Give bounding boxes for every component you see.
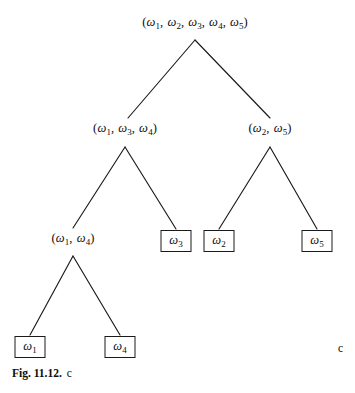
figure-number: Fig. 11.12.	[12, 367, 62, 379]
leaf-node-w1-label: ω1	[23, 340, 36, 355]
figure-canvas: (ω1,ω2,ω3,ω4,ω5) (ω1,ω3,ω4) (ω2,ω5) (ω1,…	[0, 0, 355, 393]
node-root: (ω1,ω2,ω3,ω4,ω5)	[142, 16, 248, 31]
tree-edges	[0, 0, 355, 393]
leaf-node-w2: ω2	[204, 230, 235, 252]
corner-label: c	[338, 342, 343, 354]
node-left-sub-cluster: (ω1,ω4)	[51, 232, 94, 247]
edge-right-cluster-leaf-w2	[219, 147, 270, 229]
figure-caption: Fig. 11.12.c	[12, 367, 72, 379]
leaf-node-w1: ω1	[15, 336, 46, 358]
edge-left-cluster-left-sub	[73, 147, 125, 228]
edge-root-left-cluster	[128, 40, 195, 118]
leaf-node-w4-label: ω4	[113, 340, 126, 355]
leaf-node-w4: ω4	[105, 336, 136, 358]
leaf-node-w5: ω5	[302, 230, 333, 252]
leaf-node-w3-label: ω3	[169, 234, 182, 249]
leaf-node-w5-label: ω5	[310, 234, 323, 249]
node-root-label: (ω1,ω2,ω3,ω4,ω5)	[142, 15, 248, 29]
node-right-cluster-label: (ω2,ω5)	[248, 121, 291, 135]
edge-root-right-cluster	[195, 40, 270, 118]
edge-right-cluster-leaf-w5	[270, 147, 317, 229]
node-left-sub-cluster-label: (ω1,ω4)	[51, 231, 94, 245]
node-left-cluster-label: (ω1,ω3,ω4)	[93, 121, 157, 135]
node-right-cluster: (ω2,ω5)	[248, 122, 291, 137]
figure-sublabel: c	[67, 367, 72, 379]
leaf-node-w3: ω3	[161, 230, 192, 252]
edge-left-sub-leaf-w1	[30, 256, 73, 335]
leaf-node-w2-label: ω2	[212, 234, 225, 249]
edge-left-cluster-leaf-w3	[125, 147, 176, 229]
edge-left-sub-leaf-w4	[73, 256, 120, 335]
node-left-cluster: (ω1,ω3,ω4)	[93, 122, 157, 137]
